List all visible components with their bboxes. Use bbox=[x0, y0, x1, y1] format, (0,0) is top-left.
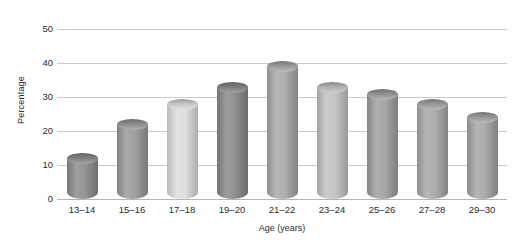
bar-body bbox=[367, 94, 398, 199]
y-axis-title: Percentage bbox=[12, 0, 30, 199]
bar-body bbox=[417, 104, 448, 199]
y-axis-tick-label: 10 bbox=[31, 160, 53, 170]
x-axis-title: Age (years) bbox=[57, 223, 507, 233]
y-axis-tick-label: 40 bbox=[31, 58, 53, 68]
y-axis-tick-label: 30 bbox=[31, 92, 53, 102]
bar[interactable] bbox=[117, 119, 148, 199]
bar-top-ellipse bbox=[167, 99, 198, 110]
bar-body bbox=[117, 124, 148, 199]
bar[interactable] bbox=[417, 99, 448, 199]
y-axis-tick-labels: 01020304050 bbox=[31, 29, 53, 199]
y-axis-tick-label: 20 bbox=[31, 126, 53, 136]
bar[interactable] bbox=[167, 99, 198, 199]
bar-top-ellipse bbox=[217, 82, 248, 93]
x-axis-tick-label: 25–26 bbox=[357, 204, 407, 215]
bar-top-ellipse bbox=[117, 119, 148, 130]
x-axis-tick-label: 19–20 bbox=[207, 204, 257, 215]
x-axis-tick-label: 27–28 bbox=[407, 204, 457, 215]
bar[interactable] bbox=[317, 82, 348, 199]
bar[interactable] bbox=[467, 112, 498, 199]
bar-top-ellipse bbox=[417, 99, 448, 110]
bar-body bbox=[217, 87, 248, 199]
bar[interactable] bbox=[367, 89, 398, 199]
gridline bbox=[57, 199, 507, 200]
x-axis-tick-label: 13–14 bbox=[57, 204, 107, 215]
x-axis-tick-label: 23–24 bbox=[307, 204, 357, 215]
x-axis-tick-label: 21–22 bbox=[257, 204, 307, 215]
y-axis-tick-label: 0 bbox=[31, 194, 53, 204]
bar-body bbox=[267, 66, 298, 199]
x-axis-tick-labels: 13–1415–1617–1819–2021–2223–2425–2627–28… bbox=[57, 204, 507, 220]
bar-body bbox=[167, 104, 198, 199]
x-axis-tick-label: 29–30 bbox=[457, 204, 507, 215]
plot-area bbox=[57, 29, 507, 199]
bar-body bbox=[317, 87, 348, 199]
bar-top-ellipse bbox=[367, 89, 398, 100]
bar[interactable] bbox=[67, 153, 98, 199]
bar-chart: Percentage 01020304050 13–1415–1617–1819… bbox=[0, 0, 517, 246]
y-axis-title-label: Percentage bbox=[16, 75, 26, 123]
bar-body bbox=[67, 158, 98, 199]
y-axis-tick-label: 50 bbox=[31, 24, 53, 34]
bar[interactable] bbox=[217, 82, 248, 199]
bars-group bbox=[57, 29, 507, 199]
bar-body bbox=[467, 117, 498, 199]
bar-top-ellipse bbox=[67, 153, 98, 164]
bar[interactable] bbox=[267, 61, 298, 199]
bar-top-ellipse bbox=[317, 82, 348, 93]
x-axis-tick-label: 17–18 bbox=[157, 204, 207, 215]
x-axis-tick-label: 15–16 bbox=[107, 204, 157, 215]
